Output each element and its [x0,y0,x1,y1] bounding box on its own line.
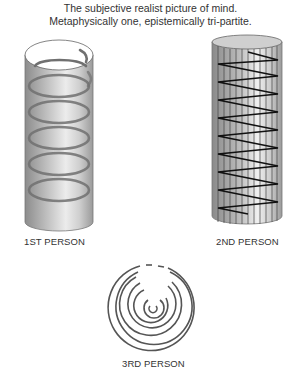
diagram-canvas [0,0,301,371]
third-person-spiral [108,265,194,351]
first-person-label: 1ST PERSON [24,236,85,247]
third-person-label: 3RD PERSON [122,358,185,369]
second-person-cylinder [212,35,282,224]
first-person-cylinder [25,40,93,231]
second-person-label: 2ND PERSON [216,236,279,247]
